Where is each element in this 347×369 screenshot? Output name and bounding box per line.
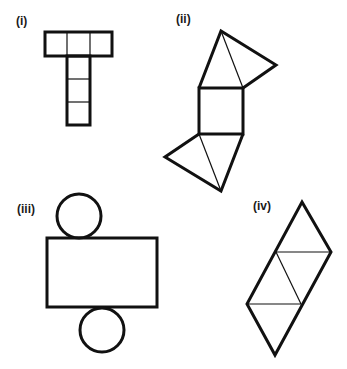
figure-iii-cylinder-net [47, 194, 157, 352]
figure-ii-pyramid-net [165, 31, 276, 191]
figure-iv-tetrahedron-net [247, 202, 331, 355]
figure-i-t-net [45, 32, 112, 125]
nets-diagram [0, 0, 347, 369]
